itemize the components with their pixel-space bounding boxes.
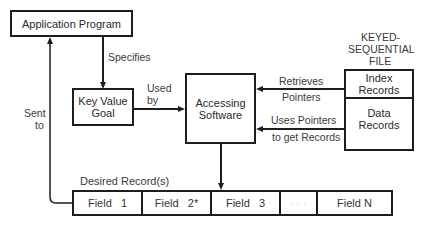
uses-pointers-arrow-line — [262, 128, 344, 130]
data-records-label-2: Records — [359, 119, 400, 131]
application-program-label: Application Program — [22, 18, 121, 30]
file-title-line-1: KEYED- — [361, 31, 400, 43]
used-by-arrow-line — [134, 108, 179, 110]
field-n: Field N — [318, 192, 391, 214]
accessing-software-label-1: Accessing — [195, 97, 245, 109]
sent-to-label-2: to — [35, 119, 44, 131]
retrieves-arrowhead — [256, 86, 263, 92]
field-2: Field 2* — [143, 192, 212, 214]
index-records-label-1: Index — [366, 72, 393, 84]
uses-pointers-arrowhead — [256, 126, 263, 132]
accessing-software-node: Accessing Software — [185, 73, 256, 144]
data-records-section: Data Records — [346, 99, 412, 149]
retrieves-arrow-line — [262, 88, 344, 90]
file-title-line-2: SEQUENTIAL — [348, 43, 415, 55]
file-title-line-3: FILE — [369, 55, 391, 67]
desired-records-label: Desired Record(s) — [80, 175, 169, 187]
field-3: Field 3 — [212, 192, 281, 214]
application-program-node: Application Program — [10, 10, 133, 37]
index-records-section: Index Records — [346, 71, 412, 99]
field-ellipsis: · · · — [281, 192, 318, 214]
used-by-label-2: by — [147, 94, 158, 106]
used-by-arrowhead — [178, 106, 185, 112]
accessing-software-label-2: Software — [199, 109, 242, 121]
records-out-arrowhead — [218, 183, 224, 190]
uses-pointers-label-2: to get Records — [272, 131, 340, 143]
index-records-label-2: Records — [359, 84, 400, 96]
used-by-label-1: Used — [147, 82, 172, 94]
records-out-arrow-line — [220, 144, 222, 184]
keyed-sequential-file-node: Index Records Data Records — [344, 69, 414, 151]
field-1: Field 1 — [74, 192, 143, 214]
retrieves-label-2: Pointers — [282, 91, 321, 103]
retrieves-label-1: Retrieves — [279, 75, 323, 87]
key-value-goal-label-2: Goal — [91, 107, 114, 119]
desired-record-fields: Field 1 Field 2* Field 3 · · · Field N — [72, 190, 393, 216]
specifies-label: Specifies — [108, 51, 151, 63]
data-records-label-1: Data — [367, 107, 390, 119]
key-value-goal-label-1: Key Value — [78, 95, 127, 107]
uses-pointers-label-1: Uses Pointers — [271, 114, 336, 126]
specifies-arrow-line — [102, 37, 104, 82]
key-value-goal-node: Key Value Goal — [72, 88, 134, 126]
sent-to-label-1: Sent — [24, 107, 46, 119]
